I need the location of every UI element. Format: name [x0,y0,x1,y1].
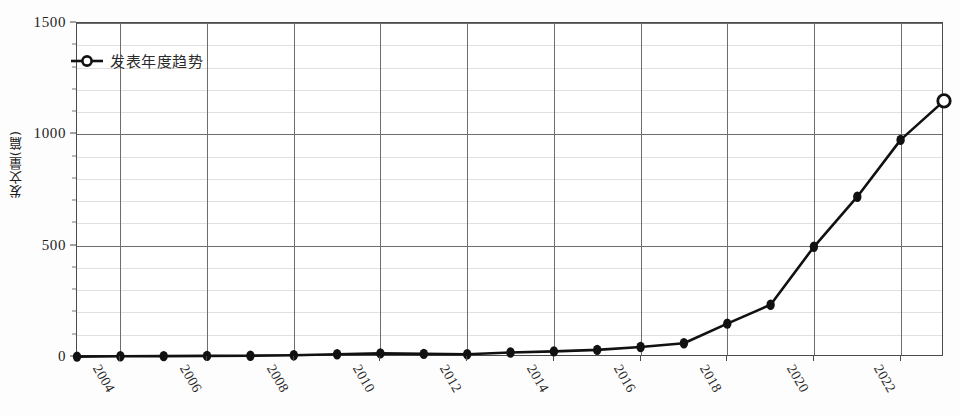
x-axis-tick-mark [813,356,814,361]
data-point-marker[interactable] [766,300,774,310]
x-axis-tick-label: 2004 [89,362,118,396]
legend: 发表年度趋势 [66,48,207,73]
data-point-marker[interactable] [636,342,644,352]
x-axis-tick-label: 2008 [263,362,292,396]
x-axis-tick-label: 2014 [523,362,552,396]
x-axis-tick-mark [553,356,554,361]
x-axis-tick-mark [640,356,641,361]
data-point-marker-open[interactable] [938,95,950,107]
x-axis-tick-mark [726,356,727,361]
x-axis-tick-label: 2016 [610,362,639,396]
chart-screenshot: 发文量(篇) 050010001500 20042006200820102012… [0,0,960,416]
x-axis-tick-group: 2004200620082010201220142016201820202022 [0,356,960,416]
data-point-marker[interactable] [853,192,861,202]
x-axis-tick-mark [900,356,901,361]
series-layer [77,23,944,357]
data-point-marker[interactable] [723,318,731,328]
legend-label: 发表年度趋势 [110,50,203,71]
data-point-marker[interactable] [810,242,818,252]
x-axis-tick-label: 2018 [696,362,725,396]
legend-marker-icon [70,54,104,68]
x-axis-tick-label: 2012 [436,362,465,396]
x-axis-tick-mark [119,356,120,361]
y-axis-tick-group: 050010001500 [0,0,76,416]
x-axis-tick-label: 2022 [870,362,899,396]
x-axis-tick-label: 2010 [350,362,379,396]
x-axis-tick-mark [293,356,294,361]
series-line [77,101,944,357]
x-axis-tick-mark [466,356,467,361]
y-axis-tick-label: 500 [42,236,66,253]
data-point-marker[interactable] [896,135,904,145]
y-axis-tick-label: 1000 [34,125,66,142]
x-axis-tick-label: 2006 [176,362,205,396]
data-point-marker[interactable] [593,345,601,355]
data-point-marker[interactable] [680,338,688,348]
y-axis-tick-label: 1500 [34,14,66,31]
x-axis-tick-label: 2020 [783,362,812,396]
x-axis-tick-mark [379,356,380,361]
x-axis-tick-mark [206,356,207,361]
